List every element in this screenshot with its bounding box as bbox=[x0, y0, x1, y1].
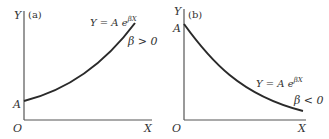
panel-b-equation: Y = A eβX bbox=[256, 76, 304, 89]
panel-a-growth-curve bbox=[24, 23, 135, 101]
panel-b-decay-curve bbox=[184, 24, 303, 111]
panel-a-condition: β > 0 bbox=[127, 35, 158, 48]
panel-a-y-label: Y bbox=[14, 9, 23, 22]
figure: Y (a) A O X Y = A eβX β > 0 Y (b) A O X … bbox=[0, 0, 329, 139]
panel-b-tag: (b) bbox=[188, 9, 202, 20]
panel-a-intercept-label: A bbox=[12, 98, 21, 111]
panel-b-intercept-label: A bbox=[172, 22, 181, 35]
panel-a-equation: Y = A eβX bbox=[90, 15, 138, 28]
panel-b-origin-label: O bbox=[172, 122, 181, 135]
panel-b-x-label: X bbox=[297, 122, 307, 135]
panel-a-tag: (a) bbox=[28, 9, 42, 20]
panel-a: Y (a) A O X Y = A eβX β > 0 bbox=[12, 9, 158, 135]
panel-a-x-label: X bbox=[143, 122, 153, 135]
panel-a-origin-label: O bbox=[13, 122, 22, 135]
panel-b-condition: β < 0 bbox=[293, 94, 324, 107]
panel-b-y-label: Y bbox=[174, 5, 183, 18]
panel-b: Y (b) A O X Y = A eβX β < 0 bbox=[172, 5, 324, 135]
